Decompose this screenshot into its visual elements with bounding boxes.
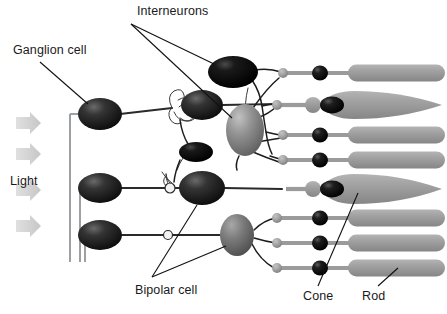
bipolar-cell-lower: [220, 214, 254, 256]
rod-2-synaptic-terminal: [278, 130, 288, 140]
amacrine-cell-small: [179, 142, 213, 162]
label-light: Light: [10, 174, 38, 188]
amacrine-cell-top: [208, 56, 258, 88]
label-ganglion-cell: Ganglion cell: [13, 43, 87, 57]
cone-1-synaptic-terminal: [272, 100, 282, 110]
rod-4-nucleus: [312, 211, 328, 226]
rod-6-synaptic-terminal: [272, 263, 282, 273]
rod-2-outer-segment: [348, 127, 445, 144]
label-interneurons: Interneurons: [137, 4, 208, 18]
rod-2-nucleus: [312, 128, 328, 143]
cone-2-nucleus: [320, 181, 344, 198]
retina-circuit-diagram: Interneurons Ganglion cell Light Bipolar…: [0, 0, 447, 314]
cone-1-nucleus: [320, 97, 344, 114]
rod-3-outer-segment: [348, 152, 445, 169]
cone-1-pedicle: [305, 97, 321, 113]
rod-1-synaptic-terminal: [278, 68, 288, 78]
cone-2-pedicle: [305, 181, 321, 197]
label-cone: Cone: [303, 289, 333, 303]
rod-1-nucleus: [312, 66, 328, 81]
label-rod: Rod: [362, 289, 385, 303]
synapse-cup-bipolar3: [164, 231, 173, 240]
diagram-canvas: Interneurons Ganglion cell Light Bipolar…: [0, 0, 447, 314]
rod-3-synaptic-terminal: [278, 155, 288, 165]
axon-bipolar2-to-cone2: [224, 188, 282, 189]
rod-3-nucleus: [312, 153, 328, 168]
rod-4-outer-segment: [348, 210, 445, 227]
rod-5-nucleus: [312, 236, 328, 251]
bipolar-cell-middle: [179, 171, 225, 205]
synapse-cup-bipolar2: [165, 183, 175, 193]
ganglion-cell-middle: [78, 173, 122, 203]
rod-6-outer-segment: [348, 260, 445, 277]
rod-5-synaptic-terminal: [272, 238, 282, 248]
ganglion-cell-top: [78, 98, 122, 130]
ganglion-cell-bottom: [78, 220, 122, 250]
label-bipolar-cell: Bipolar cell: [135, 283, 197, 297]
bipolar-cell-upper: [181, 90, 223, 120]
rod-4-synaptic-terminal: [272, 213, 282, 223]
rod-1-outer-segment: [348, 65, 445, 82]
rod-5-outer-segment: [348, 235, 445, 252]
horizontal-cell: [226, 104, 264, 156]
